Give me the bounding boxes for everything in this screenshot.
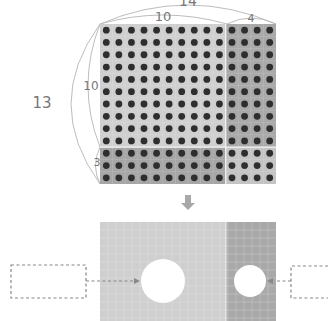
grid-dot [254,27,261,34]
grid-dot [115,27,122,34]
grid-dot [191,88,198,95]
grid-dot [254,150,261,157]
label-total-width: 14 [179,0,197,9]
grid-dot [203,76,210,83]
grid-dot [266,39,273,46]
grid-dot [166,76,173,83]
grid-dot [103,101,110,108]
grid-dot [241,101,248,108]
multiplication-area-diagram: 14 10 4 13 10 3 [0,0,328,321]
dot-grid [100,24,276,184]
grid-dot [103,125,110,132]
grid-dot [178,113,185,120]
grid-dot [128,27,135,34]
grid-dot [128,138,135,145]
grid-dot [103,138,110,145]
grid-dot [266,125,273,132]
grid-dot [266,162,273,169]
grid-dot [153,64,160,71]
grid-dot [241,39,248,46]
grid-dot [203,88,210,95]
grid-dot [166,174,173,181]
grid-dot [153,101,160,108]
grid-dot [166,162,173,169]
grid-dot [266,64,273,71]
grid-dot [254,138,261,145]
grid-dot [203,138,210,145]
grid-dot [203,150,210,157]
grid-dot [115,101,122,108]
grid-dot [191,138,198,145]
grid-dot [229,101,236,108]
grid-dot [241,64,248,71]
grid-dot [178,39,185,46]
label-total-height: 13 [32,94,51,112]
grid-dot [153,39,160,46]
grid-dot [115,64,122,71]
grid-dot [254,51,261,58]
grid-dot [115,88,122,95]
grid-dot [141,174,148,181]
grid-dot [229,88,236,95]
grid-dot [266,150,273,157]
grid-dot [115,125,122,132]
grid-dot [216,88,223,95]
grid-dot [153,113,160,120]
grid-dot [229,51,236,58]
grid-dot [178,64,185,71]
grid-dot [115,51,122,58]
bottom-panel [100,222,276,321]
grid-dot [141,113,148,120]
grid-dot [166,39,173,46]
grid-dot [141,88,148,95]
label-right-width: 4 [248,12,255,25]
grid-dot [203,174,210,181]
grid-dot [216,150,223,157]
grid-dot [166,101,173,108]
grid-dot [266,101,273,108]
grid-dot [141,27,148,34]
grid-dot [166,51,173,58]
grid-dot [178,76,185,83]
grid-dot [216,162,223,169]
grid-dot [115,39,122,46]
grid-dot [266,138,273,145]
grid-dot [166,125,173,132]
grid-dot [128,101,135,108]
grid-dot [229,27,236,34]
grid-dot [103,76,110,83]
grid-dot [153,150,160,157]
grid-dot [191,27,198,34]
grid-dot [241,174,248,181]
grid-dot [229,150,236,157]
grid-dot [216,125,223,132]
grid-dot [178,27,185,34]
grid-dot [266,174,273,181]
grid-dot [254,125,261,132]
grid-dot [141,64,148,71]
grid-dot [153,125,160,132]
answer-box-right[interactable] [291,266,328,298]
grid-dot [178,174,185,181]
grid-dot [141,39,148,46]
grid-dot [103,64,110,71]
grid-dot [229,138,236,145]
grid-dot [254,76,261,83]
grid-dot [166,88,173,95]
grid-dot [229,64,236,71]
grid-dot [178,138,185,145]
answer-circle-left[interactable] [141,259,185,303]
grid-dot [178,150,185,157]
grid-dot [128,162,135,169]
grid-dot [191,174,198,181]
grid-dot [203,51,210,58]
grid-dot [141,101,148,108]
grid-dot [103,51,110,58]
answer-box-left[interactable] [11,265,86,298]
answer-circle-right[interactable] [234,265,266,297]
grid-dot [216,27,223,34]
grid-dot [128,76,135,83]
grid-dot [115,174,122,181]
grid-dot [191,150,198,157]
grid-dot [103,174,110,181]
